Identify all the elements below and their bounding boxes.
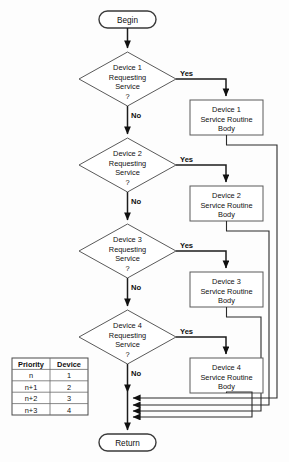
decision-2-line-1: Device 2 bbox=[113, 149, 142, 158]
decision-3-no-label: No bbox=[131, 283, 141, 292]
table-cell-device: 3 bbox=[67, 394, 71, 403]
connector-decision-4-yes bbox=[176, 337, 226, 354]
table-cell-device: 1 bbox=[67, 371, 71, 380]
connector-decision-1-yes bbox=[176, 79, 226, 96]
decision-4-line-3: Service bbox=[115, 340, 140, 349]
table-cell-device: 2 bbox=[67, 383, 71, 392]
decision-2-line-3: Service bbox=[115, 168, 140, 177]
begin-label: Begin bbox=[117, 16, 138, 25]
decision-4-no-label: No bbox=[131, 369, 141, 378]
process-1-line-3: Body bbox=[218, 124, 235, 133]
priority-device-table: Priority Device n 1 n+1 2 n+2 3 n+3 4 bbox=[12, 358, 88, 415]
decision-2-device-2-requesting-service: Device 2 Requesting Service ? bbox=[79, 138, 176, 192]
table-cell-priority: n+2 bbox=[25, 394, 38, 403]
decision-1-line-4: ? bbox=[125, 92, 129, 101]
process-3-line-2: Service Routine bbox=[200, 287, 252, 296]
decision-3-yes-label: Yes bbox=[180, 241, 193, 250]
table-cell-device: 4 bbox=[67, 406, 71, 415]
decision-4-line-4: ? bbox=[125, 350, 129, 359]
decision-1-no-label: No bbox=[131, 111, 141, 120]
flowchart-canvas: Begin Device 1 Requesting Service ? Yes … bbox=[0, 0, 289, 462]
connector-decision-2-yes bbox=[176, 165, 226, 182]
decision-1-line-1: Device 1 bbox=[113, 63, 142, 72]
decision-3-line-2: Requesting bbox=[109, 245, 146, 254]
decision-2-yes-label: Yes bbox=[180, 155, 193, 164]
table-cell-priority: n bbox=[29, 371, 33, 380]
table-header-device: Device bbox=[57, 360, 81, 369]
process-4-line-1: Device 4 bbox=[212, 363, 241, 372]
process-1-line-2: Service Routine bbox=[200, 115, 252, 124]
process-2-line-1: Device 2 bbox=[212, 191, 241, 200]
decision-1-device-1-requesting-service: Device 1 Requesting Service ? bbox=[79, 52, 176, 106]
return-terminal: Return bbox=[99, 434, 156, 451]
process-1-line-1: Device 1 bbox=[212, 105, 241, 114]
decision-2-no-label: No bbox=[131, 197, 141, 206]
decision-4-line-2: Requesting bbox=[109, 331, 146, 340]
decision-2-line-4: ? bbox=[125, 178, 129, 187]
table-cell-priority: n+1 bbox=[25, 383, 38, 392]
process-3-line-3: Body bbox=[218, 296, 235, 305]
process-3-line-1: Device 3 bbox=[212, 277, 241, 286]
process-3-device-3-service-routine-body: Device 3 Service Routine Body bbox=[190, 272, 263, 307]
decision-3-device-3-requesting-service: Device 3 Requesting Service ? bbox=[79, 224, 176, 278]
return-label: Return bbox=[115, 439, 140, 448]
process-2-device-2-service-routine-body: Device 2 Service Routine Body bbox=[190, 186, 263, 221]
decision-1-line-2: Requesting bbox=[109, 73, 146, 82]
begin-terminal: Begin bbox=[99, 11, 156, 28]
decision-1-yes-label: Yes bbox=[180, 69, 193, 78]
decision-4-device-4-requesting-service: Device 4 Requesting Service ? bbox=[79, 310, 176, 364]
process-4-device-4-service-routine-body: Device 4 Service Routine Body bbox=[190, 358, 263, 393]
decision-3-line-3: Service bbox=[115, 254, 140, 263]
process-2-line-2: Service Routine bbox=[200, 201, 252, 210]
decision-2-line-2: Requesting bbox=[109, 159, 146, 168]
decision-3-line-4: ? bbox=[125, 264, 129, 273]
connector-decision-3-yes bbox=[176, 251, 226, 268]
decision-1-line-3: Service bbox=[115, 82, 140, 91]
table-cell-priority: n+3 bbox=[25, 406, 38, 415]
decision-4-line-1: Device 4 bbox=[113, 321, 142, 330]
process-4-line-3: Body bbox=[218, 382, 235, 391]
process-4-line-2: Service Routine bbox=[200, 373, 252, 382]
process-1-device-1-service-routine-body: Device 1 Service Routine Body bbox=[190, 100, 263, 135]
decision-4-yes-label: Yes bbox=[180, 327, 193, 336]
decision-3-line-1: Device 3 bbox=[113, 235, 142, 244]
table-header-priority: Priority bbox=[18, 360, 45, 369]
process-2-line-3: Body bbox=[218, 210, 235, 219]
